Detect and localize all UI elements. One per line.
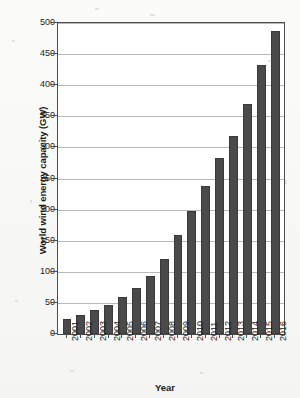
x-axis-tick-mark bbox=[246, 333, 247, 338]
bar-slot bbox=[268, 23, 282, 334]
x-axis-tick-mark bbox=[219, 333, 220, 338]
x-axis-tick-mark bbox=[135, 333, 136, 338]
x-axis-tick-label: 2013 bbox=[236, 321, 246, 341]
y-axis-tick-mark bbox=[51, 209, 57, 210]
y-axis-tick-mark bbox=[51, 240, 57, 241]
x-axis-tick-mark bbox=[163, 333, 164, 338]
y-axis-tick-label: 0 bbox=[15, 328, 55, 338]
scan-artifact bbox=[150, 14, 155, 16]
x-axis-tick-label: 2012 bbox=[223, 321, 233, 341]
scan-artifact bbox=[12, 40, 15, 42]
bar-slot bbox=[240, 23, 254, 334]
chart-figure: World wind energy capacity (GW) 05010015… bbox=[0, 0, 300, 398]
y-axis-tick-mark bbox=[51, 84, 57, 85]
y-axis-tick-label: 500 bbox=[15, 17, 55, 27]
bar-slot bbox=[213, 23, 227, 334]
bar-slot bbox=[185, 23, 199, 334]
x-axis-tick-mark bbox=[94, 333, 95, 338]
bar-slot bbox=[60, 23, 74, 334]
x-axis-tick-label: 2008 bbox=[167, 321, 177, 341]
bar-slot bbox=[143, 23, 157, 334]
bar-slot bbox=[254, 23, 268, 334]
scan-artifact bbox=[285, 180, 287, 184]
x-axis-tick-mark bbox=[274, 333, 275, 338]
bar[interactable] bbox=[271, 31, 280, 334]
y-axis-tick-label: 450 bbox=[15, 48, 55, 58]
y-axis-tick-mark bbox=[51, 22, 57, 23]
bar[interactable] bbox=[229, 136, 238, 334]
bar-slot bbox=[116, 23, 130, 334]
x-axis-tick-label: 2004 bbox=[112, 321, 122, 341]
x-axis-tick-mark bbox=[232, 333, 233, 338]
scan-artifact bbox=[95, 8, 99, 10]
plot-area bbox=[57, 22, 285, 335]
x-axis-tick-mark bbox=[260, 333, 261, 338]
y-axis-tick-label: 150 bbox=[15, 235, 55, 245]
x-axis-tick-label: 2015 bbox=[264, 321, 274, 341]
x-axis-tick-label: 2010 bbox=[195, 321, 205, 341]
y-axis-tick-mark bbox=[51, 302, 57, 303]
x-axis-tick-label: 2011 bbox=[209, 322, 219, 341]
x-axis-tick-mark bbox=[177, 333, 178, 338]
x-axis-tick-mark bbox=[205, 333, 206, 338]
y-axis-tick-label: 200 bbox=[15, 204, 55, 214]
y-axis-tick-label: 250 bbox=[15, 173, 55, 183]
y-axis-tick-mark bbox=[51, 333, 57, 334]
y-axis-tick-mark bbox=[51, 271, 57, 272]
bar[interactable] bbox=[215, 158, 224, 334]
y-axis-tick-label: 50 bbox=[15, 297, 55, 307]
y-axis-tick-mark bbox=[51, 146, 57, 147]
y-axis-tick-mark bbox=[51, 53, 57, 54]
bar-slot bbox=[74, 23, 88, 334]
y-axis-tick-label: 100 bbox=[15, 266, 55, 276]
x-axis-tick-mark bbox=[121, 333, 122, 338]
x-axis-tick-mark bbox=[149, 333, 150, 338]
bar-slot bbox=[157, 23, 171, 334]
x-axis-tick-label: 2007 bbox=[153, 321, 163, 341]
x-axis-tick-label: 2009 bbox=[181, 321, 191, 341]
bar[interactable] bbox=[201, 186, 210, 334]
bar-slot bbox=[227, 23, 241, 334]
y-axis-tick-label: 350 bbox=[15, 110, 55, 120]
bar[interactable] bbox=[187, 211, 196, 334]
scan-artifact bbox=[70, 370, 74, 372]
x-axis-tick-label: 2003 bbox=[98, 321, 108, 341]
scan-artifact bbox=[30, 200, 32, 203]
bar-slot bbox=[102, 23, 116, 334]
x-axis-tick-label: 2005 bbox=[125, 321, 135, 341]
x-axis-tick-mark bbox=[80, 333, 81, 338]
x-axis-tick-label: 2016 bbox=[278, 321, 288, 341]
bar-slot bbox=[88, 23, 102, 334]
y-axis-tick-label: 400 bbox=[15, 79, 55, 89]
bar[interactable] bbox=[243, 104, 252, 334]
x-axis-tick-mark bbox=[66, 333, 67, 338]
bar-slot bbox=[129, 23, 143, 334]
x-axis-tick-label: 2002 bbox=[84, 321, 94, 341]
x-axis-tick-label: 2001 bbox=[70, 321, 80, 341]
bar[interactable] bbox=[174, 235, 183, 334]
scan-artifact bbox=[200, 372, 203, 374]
bar[interactable] bbox=[257, 65, 266, 334]
y-axis-tick-mark bbox=[51, 178, 57, 179]
bar-slot bbox=[199, 23, 213, 334]
x-axis-tick-mark bbox=[108, 333, 109, 338]
x-axis-tick-label: 2006 bbox=[139, 321, 149, 341]
bar-slot bbox=[171, 23, 185, 334]
y-axis-tick-mark bbox=[51, 115, 57, 116]
x-axis-tick-mark bbox=[191, 333, 192, 338]
x-axis-title: Year bbox=[40, 382, 290, 393]
bar-series bbox=[58, 23, 284, 334]
y-axis-tick-label: 300 bbox=[15, 141, 55, 151]
x-axis-tick-label: 2014 bbox=[250, 321, 260, 341]
